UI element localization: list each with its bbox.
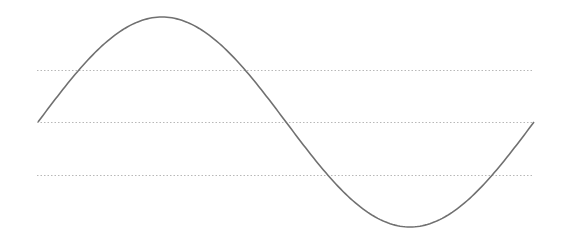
- series-line-sine: [38, 17, 534, 227]
- gridlines: [37, 71, 532, 176]
- series-layer: [38, 17, 534, 227]
- sine-wave-chart: [0, 0, 562, 239]
